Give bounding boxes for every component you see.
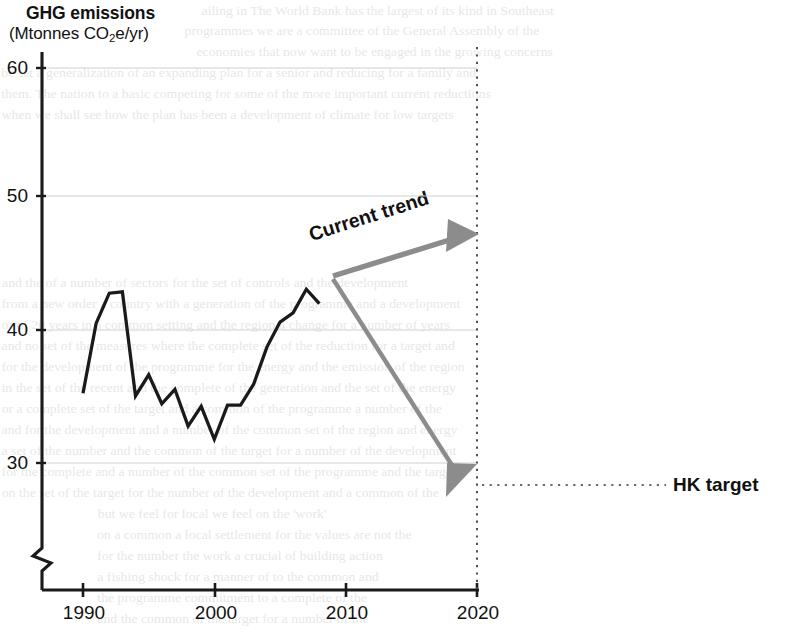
emissions-series-line [83, 289, 319, 439]
ghg-emissions-chart [0, 0, 785, 642]
current-trend-arrow-shaft [333, 238, 456, 276]
y-axis [33, 52, 51, 590]
target-trajectory-arrow-head [446, 463, 477, 497]
target-trajectory-arrow [333, 279, 477, 497]
x-axis [42, 583, 479, 597]
current-trend-arrow [333, 219, 479, 276]
y-axis-line-with-break [33, 52, 51, 590]
target-trajectory-arrow-shaft [333, 279, 455, 470]
current-trend-arrow-head [446, 219, 479, 252]
